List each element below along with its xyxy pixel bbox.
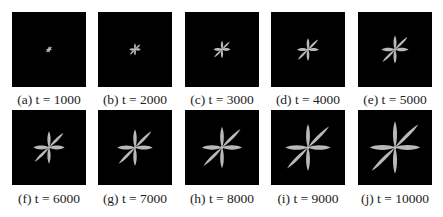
caption-i: (i) t = 9000: [258, 191, 358, 207]
crystal-dendrite-icon: [12, 12, 86, 87]
caption-g: (g) t = 7000: [85, 191, 185, 207]
caption-h: (h) t = 8000: [172, 191, 272, 207]
crystal-dendrite-icon: [185, 12, 259, 87]
crystal-dendrite-icon: [98, 12, 172, 87]
panel-f-image: [12, 110, 86, 185]
caption-d: (d) t = 4000: [258, 92, 358, 108]
panel-b-image: [98, 12, 172, 87]
panel-a-image: [12, 12, 86, 87]
crystal-dendrite-icon: [271, 12, 345, 87]
caption-c: (c) t = 3000: [172, 92, 272, 108]
panel-c-image: [185, 12, 259, 87]
caption-j: (j) t = 10000: [345, 191, 443, 207]
crystal-dendrite-icon: [12, 110, 86, 185]
crystal-dendrite-icon: [98, 110, 172, 185]
crystal-dendrite-icon: [358, 12, 432, 87]
crystal-dendrite-icon: [358, 110, 432, 185]
crystal-dendrite-icon: [185, 110, 259, 185]
panel-e-image: [358, 12, 432, 87]
panel-i-image: [271, 110, 345, 185]
caption-b: (b) t = 2000: [85, 92, 185, 108]
panel-d-image: [271, 12, 345, 87]
crystal-dendrite-icon: [271, 110, 345, 185]
panel-j-image: [358, 110, 432, 185]
panel-g-image: [98, 110, 172, 185]
panel-h-image: [185, 110, 259, 185]
caption-e: (e) t = 5000: [345, 92, 443, 108]
